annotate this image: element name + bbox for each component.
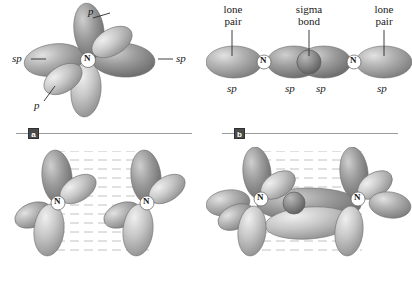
panel-a-caption: a	[16, 126, 192, 140]
orbital-lone-pair-left	[206, 46, 262, 78]
panel-a: p p sp sp N a	[0, 0, 206, 147]
label-sp-right: sp	[176, 52, 186, 64]
panel-b: lone pair sigma bond lone pair sp sp sp …	[206, 0, 412, 147]
label-lone-pair-left: lone pair	[212, 4, 254, 27]
label-sigma-bond-line1: sigma	[286, 4, 332, 16]
panel-d: N N d	[206, 147, 412, 294]
panel-badge-b: b	[234, 128, 245, 139]
label-lone-pair-right: lone pair	[363, 4, 405, 27]
panel-c: N N c	[0, 147, 206, 294]
atom-label-n-c-left: N	[54, 196, 61, 206]
label-lone-pair-right-line1: lone	[363, 4, 405, 16]
caption-rule-left	[222, 133, 234, 134]
atom-label-n-b-right: N	[350, 55, 357, 65]
panel-a-illustration	[0, 0, 206, 147]
caption-rule-left	[16, 133, 28, 134]
label-sp-b-1: sp	[227, 82, 237, 94]
panel-badge-a: a	[28, 128, 39, 139]
panel-c-illustration	[0, 147, 206, 294]
atom-label-n-b-left: N	[260, 55, 267, 65]
panel-d-illustration	[206, 147, 412, 294]
label-sigma-bond: sigma bond	[286, 4, 332, 27]
label-sp-left: sp	[12, 52, 22, 64]
label-sp-b-2: sp	[285, 82, 295, 94]
panel-b-caption: b	[222, 126, 398, 140]
label-sigma-bond-line2: bond	[286, 16, 332, 28]
label-lone-pair-left-line2: pair	[212, 16, 254, 28]
sigma-bond-overlap-d	[283, 192, 305, 214]
atom-label-n-d-left: N	[257, 192, 264, 202]
label-sp-b-4: sp	[377, 82, 387, 94]
label-p-lower-left: p	[34, 99, 40, 111]
label-lone-pair-right-line2: pair	[363, 16, 405, 28]
label-lone-pair-left-line1: lone	[212, 4, 254, 16]
caption-rule-right	[39, 133, 192, 134]
label-sp-b-3: sp	[316, 82, 326, 94]
orbital-hybridization-figure: p p sp sp N a	[0, 0, 412, 294]
caption-rule-right	[245, 133, 398, 134]
atom-label-n-c-right: N	[143, 196, 150, 206]
atom-label-n-a: N	[84, 53, 91, 63]
atom-label-n-d-right: N	[354, 192, 361, 202]
label-p-top: p	[88, 5, 94, 17]
